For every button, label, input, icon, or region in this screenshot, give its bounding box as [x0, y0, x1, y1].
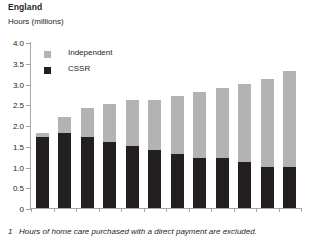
figure-home-care-hours: England Hours (millions) 00.51.01.52.02.…: [0, 0, 309, 242]
bar-group: 2003: [261, 79, 274, 208]
bar-segment-independent: [148, 100, 161, 150]
x-axis-tick-mark: [76, 208, 77, 212]
bar-segment-independent: [36, 133, 49, 137]
x-axis-tick-mark: [121, 208, 122, 212]
x-axis-tick-mark: [99, 208, 100, 212]
bar-group: 1999: [171, 96, 184, 208]
bar-segment-cssr: [58, 133, 71, 208]
bar-group: 1998: [148, 100, 161, 208]
bar-group: 1995: [81, 108, 94, 208]
y-axis-tick-label: 2.0: [13, 122, 24, 131]
bar-segment-cssr: [103, 142, 116, 208]
y-axis-tick-mark: [26, 64, 30, 65]
x-axis-tick-mark: [166, 208, 167, 212]
y-axis-tick-mark: [26, 168, 30, 169]
y-axis-unit-label: Hours (millions): [8, 17, 64, 26]
bar-segment-cssr: [36, 137, 49, 208]
y-axis-tick-label: 2.5: [13, 101, 24, 110]
y-axis-tick-label: 3.5: [13, 59, 24, 68]
y-axis-tick-label: 1.0: [13, 163, 24, 172]
y-axis-tick-mark: [26, 209, 30, 210]
y-axis-tick-mark: [26, 43, 30, 44]
bar-group: 2000: [193, 92, 206, 208]
bar-segment-cssr: [81, 137, 94, 208]
bar-segment-cssr: [193, 158, 206, 208]
legend-swatch-independent: [44, 51, 51, 58]
footnote: 1Hours of home care purchased with a dir…: [8, 227, 257, 236]
y-axis-tick-mark: [26, 105, 30, 106]
bar-segment-cssr: [238, 162, 251, 208]
legend-swatch-cssr: [44, 67, 51, 74]
bar-segment-cssr: [261, 167, 274, 209]
x-axis-tick-mark: [54, 208, 55, 212]
y-axis-tick-label: 0: [20, 205, 24, 214]
x-axis-tick-mark: [234, 208, 235, 212]
bar-segment-independent: [283, 71, 296, 166]
bar-segment-cssr: [126, 146, 139, 208]
bar-segment-independent: [103, 104, 116, 141]
footnote-text: Hours of home care purchased with a dire…: [19, 227, 257, 236]
bar-segment-independent: [58, 117, 71, 134]
y-axis-tick-label: 1.5: [13, 142, 24, 151]
bar-segment-independent: [171, 96, 184, 154]
bar-segment-cssr: [216, 158, 229, 208]
x-axis-tick-mark: [144, 208, 145, 212]
bar-group: 1997: [126, 100, 139, 208]
y-axis-tick-label: 0.5: [13, 184, 24, 193]
x-axis-tick-mark: [301, 208, 302, 212]
x-axis-tick-mark: [256, 208, 257, 212]
bar-segment-independent: [216, 88, 229, 159]
x-axis-tick-mark: [189, 208, 190, 212]
x-axis-tick-mark: [279, 208, 280, 212]
bar-group: 1993: [36, 133, 49, 208]
bar-segment-cssr: [148, 150, 161, 208]
bar-segment-independent: [238, 84, 251, 163]
bar-group: 2002: [238, 84, 251, 209]
bar-group: 2001: [216, 88, 229, 208]
footnote-marker: 1: [8, 227, 19, 236]
bar-group: 1996: [103, 104, 116, 208]
bar-segment-cssr: [171, 154, 184, 208]
y-axis-tick-mark: [26, 147, 30, 148]
y-axis-tick-mark: [26, 188, 30, 189]
bar-segment-independent: [81, 108, 94, 137]
y-axis-tick-label: 3.0: [13, 80, 24, 89]
bar-segment-independent: [261, 79, 274, 166]
x-axis-tick-mark: [211, 208, 212, 212]
bar-segment-independent: [126, 100, 139, 146]
y-axis-tick-mark: [26, 85, 30, 86]
bar-group: 2004: [283, 71, 296, 208]
bar-segment-cssr: [283, 167, 296, 209]
legend-label-cssr: CSSR: [68, 64, 90, 73]
x-axis-tick-mark: [31, 208, 32, 212]
bar-segment-independent: [193, 92, 206, 158]
y-axis-tick-mark: [26, 126, 30, 127]
bar-group: 1994: [58, 117, 71, 208]
y-axis-tick-label: 4.0: [13, 39, 24, 48]
legend-label-independent: Independent: [68, 48, 113, 57]
region-title: England: [8, 2, 42, 12]
